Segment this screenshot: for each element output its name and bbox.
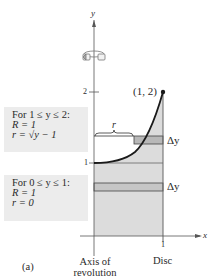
y-tick-label-1: 1 bbox=[84, 159, 88, 167]
point-1-2 bbox=[161, 90, 165, 94]
axis-of-revolution-label: Axis of revolution bbox=[70, 256, 120, 278]
small-r-upper: r = √y − 1 bbox=[12, 130, 84, 140]
figure-label: (a) bbox=[22, 262, 34, 273]
disc-label: Disc bbox=[153, 256, 172, 267]
radius-label: r bbox=[112, 120, 116, 130]
condition-box-lower: For 0 ≤ y ≤ 1: R = 1 r = 0 bbox=[4, 175, 88, 221]
delta-y-upper: Δy bbox=[167, 135, 180, 146]
y-axis-arrow-icon bbox=[92, 20, 96, 27]
point-label: (1, 2) bbox=[133, 86, 157, 97]
shaded-region bbox=[94, 92, 163, 236]
radius-brace bbox=[95, 130, 133, 136]
small-r-lower: r = 0 bbox=[12, 198, 84, 208]
axis-label-line1: Axis of bbox=[70, 256, 120, 267]
y-tick-label-2: 2 bbox=[83, 88, 87, 96]
upper-strip bbox=[134, 136, 163, 144]
lower-strip bbox=[94, 183, 163, 191]
delta-y-lower: Δy bbox=[167, 181, 180, 192]
x-tick-label-1: 1 bbox=[161, 241, 165, 249]
x-axis-arrow-icon bbox=[195, 234, 202, 238]
y-axis-label: y bbox=[91, 9, 95, 18]
x-axis-label: x bbox=[203, 231, 207, 240]
condition-box-upper: For 1 ≤ y ≤ 2: R = 1 r = √y − 1 bbox=[4, 107, 88, 152]
axis-label-line2: revolution bbox=[70, 267, 120, 278]
